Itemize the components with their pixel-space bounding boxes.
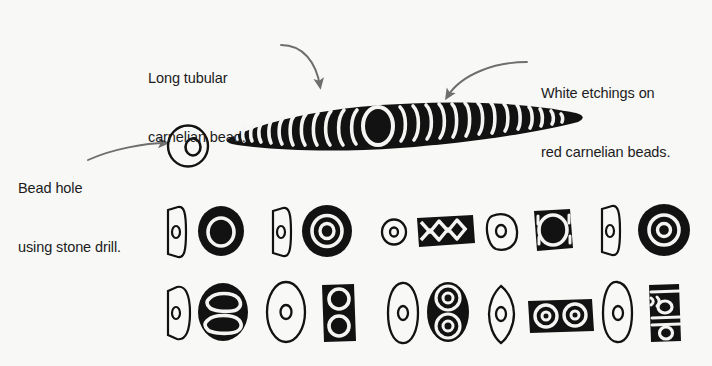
bead-4-face-center xyxy=(547,224,559,237)
bead-7-face-body xyxy=(322,284,356,342)
label-white-etchings-on-red-carnelian-beads: White etchings on red carnelian beads. xyxy=(541,45,670,202)
label-bead-hole-line-1: Bead hole xyxy=(18,179,121,199)
label-long-tubular-line-1: Long tubular xyxy=(148,69,246,89)
bead-2-face-body xyxy=(302,205,352,257)
label-bead-hole-line-2: using stone drill. xyxy=(18,238,121,258)
label-long-tubular-line-2: carnelian bead. xyxy=(148,128,246,148)
bead-8-face-body xyxy=(427,282,469,342)
label-long-tubular-carnelian-bead: Long tubular carnelian bead. xyxy=(148,30,246,187)
label-white-etchings-line-1: White etchings on xyxy=(541,84,670,104)
bead-9-face-body xyxy=(528,299,594,333)
bead-1-face-hole xyxy=(215,226,227,239)
label-white-etchings-line-2: red carnelian beads. xyxy=(541,143,670,163)
label-bead-hole-using-stone-drill: Bead hole using stone drill. xyxy=(18,140,121,297)
bead-illustration-figure: Long tubular carnelian bead. White etchi… xyxy=(0,0,712,366)
bead-5-face-body xyxy=(638,204,690,256)
